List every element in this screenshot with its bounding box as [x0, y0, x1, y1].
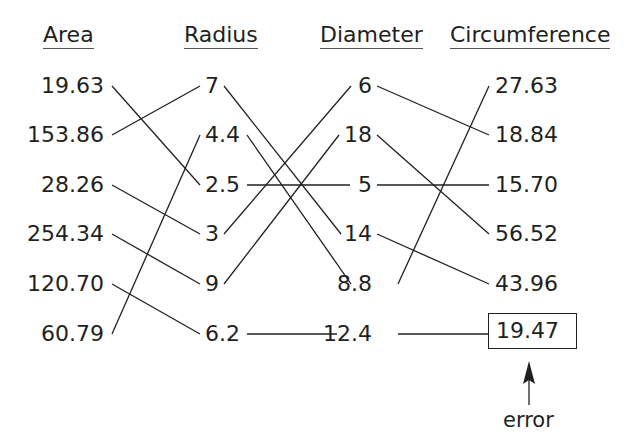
diameter-value: 18 — [344, 122, 372, 148]
link-254.34-9 — [112, 234, 200, 284]
link-4.4-8.8 — [247, 135, 351, 284]
area-value: 19.63 — [41, 73, 104, 99]
circumference-value: 18.84 — [495, 122, 558, 148]
circumference-value: 15.70 — [495, 172, 558, 198]
circumference-error-box: 19.47 — [488, 313, 577, 349]
link-19.63-2.5 — [112, 86, 200, 185]
radius-value: 2.5 — [205, 172, 240, 198]
link-7-14 — [224, 86, 341, 234]
circumference-value: 43.96 — [495, 271, 558, 297]
area-value: 254.34 — [27, 221, 104, 247]
area-value: 28.26 — [41, 172, 104, 198]
link-3-6 — [224, 86, 351, 234]
diameter-value: 5 — [358, 172, 372, 198]
link-153.86-7 — [112, 86, 200, 135]
circumference-value: 27.63 — [495, 73, 558, 99]
link-28.26-3 — [112, 185, 200, 234]
area-value: 153.86 — [27, 122, 104, 148]
link-6-18.84 — [377, 86, 489, 135]
error-label: error — [503, 408, 554, 432]
diameter-value: 6 — [358, 73, 372, 99]
radius-value: 7 — [205, 73, 219, 99]
radius-value: 4.4 — [205, 122, 240, 148]
circumference-value: 56.52 — [495, 221, 558, 247]
radius-value: 6.2 — [205, 321, 240, 347]
link-60.79-4.4 — [112, 135, 200, 334]
area-value: 60.79 — [41, 321, 104, 347]
radius-value: 3 — [205, 221, 219, 247]
area-value: 120.70 — [27, 271, 104, 297]
link-120.70-6.2 — [112, 284, 200, 334]
diameter-value: 12.4 — [323, 321, 372, 347]
link-14-43.96 — [377, 234, 489, 284]
radius-value: 9 — [205, 271, 219, 297]
diameter-value: 14 — [344, 221, 372, 247]
diameter-value: 8.8 — [337, 271, 372, 297]
